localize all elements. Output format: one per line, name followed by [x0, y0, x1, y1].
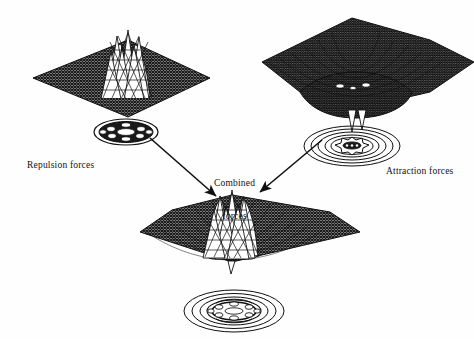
- label-combined-forces: Combined forces: [214, 156, 255, 244]
- label-attraction-forces: Attraction forces: [386, 166, 454, 177]
- label-combined-forces-line2: forces: [214, 211, 255, 222]
- repulsion-contour-plot: [94, 119, 158, 145]
- force-field-figure: Repulsion forces Combined forces Attract…: [0, 0, 474, 339]
- label-repulsion-forces: Repulsion forces: [27, 160, 94, 171]
- label-combined-forces-line1: Combined: [214, 178, 255, 189]
- attraction-contour-plot: [304, 126, 400, 166]
